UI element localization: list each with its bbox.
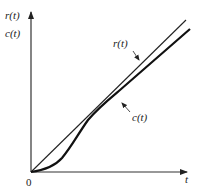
c-t-label: c(t): [132, 111, 148, 124]
r-t-curve: [31, 20, 186, 172]
y-label-c: c(t): [5, 27, 21, 40]
y-label-r: r(t): [5, 9, 20, 22]
origin-label: 0: [26, 176, 32, 188]
x-axis-label: t: [185, 173, 189, 185]
c-t-curve: [31, 29, 190, 172]
c-t-pointer: [122, 103, 130, 112]
r-t-label: r(t): [113, 37, 128, 50]
r-t-pointer: [133, 51, 139, 60]
ramp-response-diagram: r(t) c(t) r(t) c(t) 0 t: [0, 0, 201, 192]
